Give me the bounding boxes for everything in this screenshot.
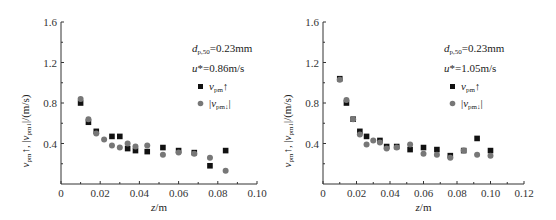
data-point: [109, 143, 115, 149]
data-point: [160, 145, 166, 151]
x-tick-label: 0.10: [247, 187, 267, 199]
data-point: [207, 155, 213, 161]
x-tick-label: 0.02: [347, 187, 366, 199]
y-tick-label: 1.6: [305, 16, 319, 28]
data-point: [421, 151, 427, 157]
data-point: [488, 153, 494, 159]
series-down: [78, 96, 229, 174]
data-point: [474, 152, 480, 158]
data-point: [407, 142, 413, 148]
data-point: [364, 142, 370, 148]
data-point: [125, 146, 131, 152]
data-point: [447, 155, 453, 161]
data-point: [78, 96, 84, 102]
data-point: [93, 130, 99, 136]
data-point: [434, 152, 440, 158]
data-point: [117, 145, 123, 151]
data-point: [407, 147, 413, 153]
data-point: [223, 148, 229, 154]
y-tick-label: 0.4: [305, 138, 319, 150]
data-point: [144, 143, 150, 149]
data-point: [377, 139, 383, 145]
y-tick-label: 1.2: [305, 57, 319, 69]
data-point: [176, 150, 182, 156]
y-tick-label: 1.6: [43, 16, 57, 28]
x-tick-label: 0.04: [380, 187, 400, 199]
data-point: [350, 116, 356, 122]
x-tick-label: 0.06: [414, 187, 434, 199]
x-tick-label: 0.08: [208, 187, 228, 199]
legend-label: vpm↑: [461, 80, 480, 94]
annotation: dp,50=0.23mm: [444, 42, 505, 56]
circle-marker-icon: [450, 101, 456, 107]
data-point: [160, 152, 166, 158]
data-point: [364, 134, 370, 140]
x-axis-label: z/m: [150, 201, 167, 213]
data-point: [117, 134, 123, 140]
data-point: [488, 148, 494, 154]
x-tick-label: 0.08: [447, 187, 467, 199]
data-point: [461, 148, 467, 154]
data-point: [109, 134, 115, 140]
data-point: [474, 136, 480, 142]
data-point: [132, 144, 138, 150]
x-tick-label: 0.12: [514, 187, 533, 199]
y-tick-label: 0.8: [43, 97, 57, 109]
x-tick-label: 0: [58, 187, 64, 199]
y-tick-label: 0.8: [305, 97, 319, 109]
x-tick-label: 0.10: [481, 187, 501, 199]
chart-canvas: 00.020.040.060.080.100.40.81.21.6z/mvpm↑…: [0, 0, 556, 220]
legend-label: |vpm↓|: [209, 97, 231, 111]
data-point: [125, 141, 131, 147]
y-axis-label: vpm↑, |vpm↓|/(m/s): [19, 94, 33, 167]
legend-label: |vpm↓|: [461, 97, 483, 111]
legend-item: |vpm↓|: [198, 97, 231, 111]
circle-marker-icon: [198, 101, 204, 107]
y-tick-label: 1.2: [43, 57, 57, 69]
data-point: [223, 168, 229, 174]
legend-item: vpm↑: [450, 80, 480, 94]
data-point: [394, 145, 400, 151]
data-point: [207, 163, 213, 169]
square-marker-icon: [198, 84, 203, 89]
data-point: [144, 149, 150, 155]
annotation: dp,50=0.23mm: [192, 42, 253, 56]
chart-panel-2: 00.020.040.060.080.100.120.40.81.21.6z/m…: [281, 16, 534, 213]
square-marker-icon: [450, 84, 455, 89]
data-point: [384, 146, 390, 152]
legend-item: |vpm↓|: [450, 97, 483, 111]
data-point: [357, 131, 363, 137]
x-tick-label: 0.06: [169, 187, 189, 199]
data-point: [421, 145, 427, 151]
series-up: [78, 100, 229, 168]
data-point: [434, 147, 440, 153]
y-axis-label: vpm↑, |vpm↓|/(m/s): [281, 94, 295, 167]
x-tick-label: 0.02: [91, 187, 110, 199]
chart-panel-1: 00.020.040.060.080.100.40.81.21.6z/mvpm↑…: [19, 16, 267, 213]
data-point: [101, 136, 107, 142]
x-axis-label: z/m: [415, 201, 432, 213]
data-point: [85, 116, 91, 122]
x-tick-label: 0: [320, 187, 326, 199]
x-tick-label: 0.04: [130, 187, 150, 199]
y-tick-label: 0.4: [43, 138, 57, 150]
data-point: [337, 77, 343, 83]
annotation: u*=0.86m/s: [192, 62, 244, 74]
data-point: [191, 151, 197, 157]
legend-item: vpm↑: [198, 80, 228, 94]
annotation: u*=1.05m/s: [444, 62, 496, 74]
legend-label: vpm↑: [209, 80, 228, 94]
data-point: [343, 97, 349, 103]
data-point: [370, 137, 376, 143]
